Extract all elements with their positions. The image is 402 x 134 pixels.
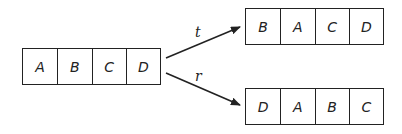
arrow-r — [166, 73, 240, 105]
arrow-label-t: t — [195, 24, 201, 40]
arrow-t — [166, 27, 240, 58]
arrows — [0, 0, 402, 134]
arrow-label-r: r — [195, 68, 202, 84]
